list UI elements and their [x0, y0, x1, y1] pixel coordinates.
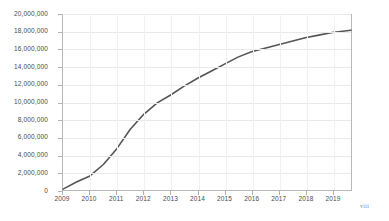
y-axis-tick-label: 16,000,000: [14, 46, 48, 53]
y-axis-tick-label: 14,000,000: [14, 64, 48, 71]
x-gridline: [171, 14, 172, 190]
x-gridline: [90, 14, 91, 190]
y-axis-tick-label: 20,000,000: [14, 11, 48, 18]
x-gridline: [334, 14, 335, 190]
y-axis-tick-label: 12,000,000: [14, 81, 48, 88]
x-gridline: [253, 14, 254, 190]
y-tick-mark: [58, 85, 62, 86]
x-axis-tick-label: 2019: [325, 196, 340, 203]
y-axis-tick-label: 18,000,000: [14, 28, 48, 35]
y-tick-mark: [58, 103, 62, 104]
chart-figure: viii 02,000,0004,000,0006,000,0008,000,0…: [0, 0, 389, 221]
y-tick-mark: [58, 156, 62, 157]
y-tick-mark: [58, 67, 62, 68]
x-axis-tick-label: 2012: [136, 196, 151, 203]
x-axis-tick-label: 2009: [54, 196, 69, 203]
y-axis-tick-label: 2,000,000: [18, 170, 48, 177]
x-gridline: [199, 14, 200, 190]
y-tick-mark: [58, 138, 62, 139]
y-tick-mark: [58, 173, 62, 174]
y-axis-tick-label: 4,000,000: [18, 152, 48, 159]
x-axis-tick-label: 2014: [190, 196, 205, 203]
x-gridline: [280, 14, 281, 190]
y-tick-mark: [58, 14, 62, 15]
x-gridline: [226, 14, 227, 190]
x-gridline: [144, 14, 145, 190]
x-axis-tick-label: 2013: [163, 196, 178, 203]
y-tick-mark: [58, 120, 62, 121]
x-gridline: [307, 14, 308, 190]
x-axis-tick-label: 2015: [217, 196, 232, 203]
page-folio: viii: [360, 203, 369, 209]
y-axis-tick-label: 6,000,000: [18, 134, 48, 141]
x-axis-tick-label: 2017: [271, 196, 286, 203]
x-axis-tick-label: 2016: [244, 196, 259, 203]
x-axis-tick-label: 2010: [82, 196, 97, 203]
x-gridline: [117, 14, 118, 190]
y-tick-mark: [58, 49, 62, 50]
plot-area: [62, 14, 352, 191]
x-axis-tick-label: 2018: [298, 196, 313, 203]
y-axis-tick-label: 0: [44, 188, 48, 195]
y-tick-mark: [58, 32, 62, 33]
y-axis-tick-label: 8,000,000: [18, 117, 48, 124]
x-axis-tick-label: 2011: [109, 196, 124, 203]
y-axis-tick-label: 10,000,000: [14, 99, 48, 106]
